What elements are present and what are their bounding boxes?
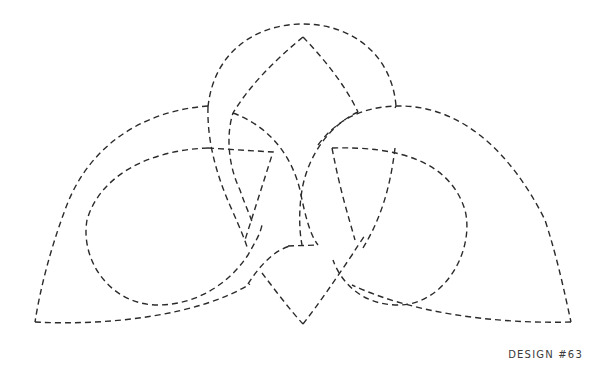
top-circle-arc [208, 24, 396, 107]
top-inner-lens-right [303, 37, 358, 112]
right-inner-loop-left-edge [332, 148, 355, 240]
design-label: DESIGN #63 [508, 349, 583, 360]
right-outer-teardrop-top [318, 106, 571, 322]
left-inner-loop-junction [208, 148, 273, 240]
right-inner-loop-strut [363, 148, 395, 248]
right-inner-loop [332, 148, 467, 305]
top-circle-left-descent [208, 107, 248, 250]
left-inner-loop [86, 148, 262, 305]
top-inner-lens-left [229, 37, 303, 222]
center-left-strand [248, 246, 290, 284]
bottom-point-right [303, 235, 365, 324]
left-outer-teardrop-top [35, 106, 208, 322]
top-inner-lens-cross [233, 113, 318, 245]
center-bridge [288, 245, 318, 246]
bottom-point-left [262, 273, 303, 324]
celtic-knot-diagram [0, 0, 605, 375]
